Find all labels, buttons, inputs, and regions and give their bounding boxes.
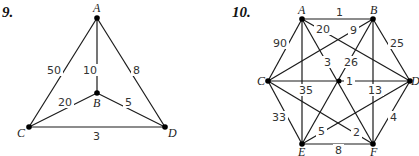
vertex-label-D: D xyxy=(410,74,419,88)
graph-canvas: 9. 501082053ABCD 10. 1902035392526131332… xyxy=(0,0,419,156)
vertex-A xyxy=(299,16,305,22)
vertex-C xyxy=(265,78,271,84)
edge-weight-A-D: 8 xyxy=(133,64,140,77)
graph-9: 9. 501082053ABCD xyxy=(2,1,177,143)
edge-weight-A-C: 90 xyxy=(273,37,287,50)
edge-B-D xyxy=(373,19,410,81)
edge-weight-C-F: 2 xyxy=(353,126,360,139)
vertex-B xyxy=(370,16,376,22)
edge-weight-B-E: 26 xyxy=(344,56,358,69)
edge-weight-C-D: 1 xyxy=(346,75,353,88)
edge-weight-B-F: 13 xyxy=(368,84,382,97)
edge-weight-A-B: 10 xyxy=(83,64,97,77)
vertex-label-A: A xyxy=(297,3,306,17)
edge-weight-E-F: 8 xyxy=(335,144,342,156)
vertex-label-A: A xyxy=(92,1,101,15)
graph-10: 10. 1902035392526131332548ABCDEF xyxy=(232,3,419,156)
vertex-label-C: C xyxy=(257,74,266,88)
edge-weight-A-E: 35 xyxy=(299,84,313,97)
edge-weight-A-D: 20 xyxy=(316,23,330,36)
vertex-label-B: B xyxy=(370,3,378,17)
vertex-label-C: C xyxy=(17,126,26,140)
problem-number-9: 9. xyxy=(2,4,13,20)
vertex-label-E: E xyxy=(297,145,306,156)
vertex-label-D: D xyxy=(167,126,177,140)
edge-weight-B-D: 25 xyxy=(390,37,404,50)
edge-weight-C-D: 3 xyxy=(93,130,100,143)
edge-A-C xyxy=(268,19,302,81)
edge-weight-D-F: 4 xyxy=(390,111,397,124)
edge-weight-A-F: 3 xyxy=(324,56,331,69)
vertex-B xyxy=(94,90,100,96)
problem-number-10: 10. xyxy=(232,4,251,20)
intersection-dot xyxy=(337,79,342,84)
edge-weight-B-C: 9 xyxy=(350,24,357,37)
edge-weight-B-C: 20 xyxy=(58,96,72,109)
edge-weight-C-E: 33 xyxy=(272,111,286,124)
edge-weight-A-B: 1 xyxy=(336,6,343,19)
vertex-C xyxy=(26,124,32,130)
vertex-D xyxy=(162,124,168,130)
vertex-label-F: F xyxy=(369,145,378,156)
vertex-A xyxy=(94,15,100,21)
edge-weight-B-D: 5 xyxy=(125,96,132,109)
edge-weight-D-E: 5 xyxy=(318,125,325,138)
vertex-label-B: B xyxy=(93,96,101,110)
edge-weight-A-C: 50 xyxy=(47,64,61,77)
